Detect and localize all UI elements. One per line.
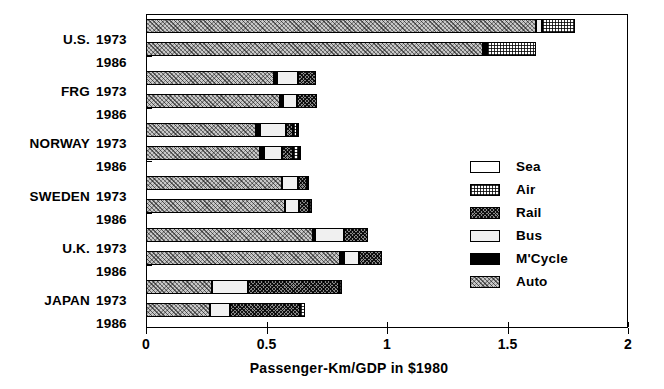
y-axis-year-label: 1986 [96,160,136,174]
bar-segment-bus [283,94,296,108]
y-axis-group-tick [146,56,152,57]
bar-row [147,19,627,33]
x-axis-tick-label: 1 [383,336,391,352]
bar-segment-auto [146,199,285,213]
y-axis-label-row: FRG1973 [61,85,136,99]
x-axis-tick-inner [267,322,268,327]
bar-segment-rail [230,303,300,317]
bar-segment-sea [297,123,299,137]
legend-item-sea: Sea [470,155,568,178]
bar-segment-air [542,19,575,33]
bar-row [147,94,627,108]
bar-segment-auto [146,123,256,137]
x-axis-tick [628,328,629,334]
legend-label: Sea [516,159,541,174]
y-axis-label-row: 1986 [90,265,136,279]
x-axis-tick-inner [387,322,388,327]
bar-segment-auto [146,280,212,294]
y-axis-year-label: 1973 [96,85,136,99]
x-axis-title: Passenger-Km/GDP in $1980 [0,360,664,376]
bar-segment-bus [212,280,248,294]
bar-segment-air [307,176,309,190]
bar-segment-auto [146,176,282,190]
legend-item-rail: Rail [470,201,568,224]
bar-segment-rail [282,146,293,160]
x-axis-tick-label: 0.5 [257,336,276,352]
bar-segment-rail [344,228,368,242]
y-axis-group-tick [146,265,152,266]
legend-item-air: Air [470,178,568,201]
y-axis-label-row: SWEDEN1973 [30,190,136,204]
bar-segment-auto [146,146,260,160]
legend-swatch-sea [470,161,500,173]
y-axis-label-row: NORWAY1973 [30,137,136,151]
y-axis-year-label: 1986 [96,108,136,122]
bar-segment-rail [298,71,316,85]
y-axis-label-row: 1986 [90,317,136,331]
legend-label: Auto [516,274,548,289]
bar-segment-air [487,42,536,56]
bar-segment-bus [277,71,297,85]
x-axis-tick [387,328,388,334]
bar-segment-bus [282,176,298,190]
y-axis-group-tick [146,108,152,109]
legend-item-auto: Auto [470,270,568,293]
bar-segment-bus [260,123,285,137]
x-axis-tick [146,328,147,334]
y-axis-label-row: U.S.1973 [63,33,136,47]
y-axis-year-label: 1973 [96,190,136,204]
bar-segment-auto [146,251,340,265]
legend-swatch-mcycle [470,253,500,265]
x-axis-title-text: Passenger-Km/GDP in $1980 [250,360,449,376]
y-axis-year-label: 1986 [96,265,136,279]
y-axis-label-row: 1986 [90,160,136,174]
x-axis-tick-label: 0 [142,336,150,352]
y-axis-year-label: 1986 [96,317,136,331]
bar-segment-bus [344,251,360,265]
y-axis-label-row: 1986 [90,213,136,227]
bar-segment-bus [264,146,282,160]
x-axis-tick-label: 1.5 [498,336,517,352]
bar-segment-sea [299,146,301,160]
y-axis-country-label: U.S. [63,33,90,47]
bar-segment-rail [297,94,317,108]
y-axis-country-label: JAPAN [44,294,90,308]
y-axis-country-label: FRG [61,85,90,99]
bar-row [147,123,627,137]
bar-segment-air [300,303,305,317]
legend-label: Bus [516,228,542,243]
y-axis-group-tick [146,161,152,162]
bar-row [147,42,627,56]
x-axis-tick-inner [628,322,629,327]
y-axis-year-label: 1986 [96,213,136,227]
y-axis-category-labels: U.S.19731986FRG19731986NORWAY19731986SWE… [0,14,142,328]
x-axis-tick-inner [146,322,147,327]
legend-label: Rail [516,205,542,220]
bar-segment-rail [359,251,382,265]
bar-segment-auto [146,42,483,56]
bar-segment-auto [146,71,274,85]
stacked-bar-chart: U.S.19731986FRG19731986NORWAY19731986SWE… [0,0,664,389]
y-axis-year-label: 1986 [96,56,136,70]
bar-segment-auto [146,19,536,33]
bar-segment-auto [146,94,280,108]
y-axis-country-label: SWEDEN [30,190,90,204]
bar-row [147,71,627,85]
legend-item-mcycle: M'Cycle [470,247,568,270]
bar-segment-bus [315,228,344,242]
x-axis-tick-inner [508,322,509,327]
legend-label: M'Cycle [516,251,568,266]
bar-segment-air [309,199,313,213]
y-axis-group-tick [146,213,152,214]
y-axis-label-row: JAPAN1973 [44,294,136,308]
bar-segment-rail [248,280,338,294]
x-axis-tick-label: 2 [624,336,632,352]
bar-segment-auto [146,303,210,317]
legend-swatch-air [470,184,500,196]
y-axis-year-label: 1973 [96,137,136,151]
bar-segment-rail [286,123,293,137]
y-axis-label-row: 1986 [90,56,136,70]
legend-item-bus: Bus [470,224,568,247]
bar-row [147,303,627,317]
x-axis-tick [508,328,509,334]
